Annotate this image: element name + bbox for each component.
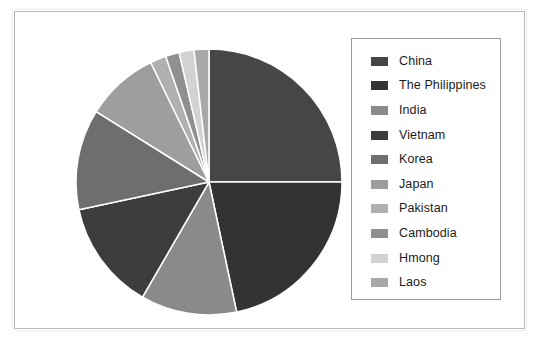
pie-chart — [61, 34, 357, 330]
legend-label: Vietnam — [399, 129, 445, 142]
pie-slice-china[interactable] — [209, 49, 342, 182]
figure-frame: ChinaThe PhilippinesIndiaVietnamKoreaJap… — [14, 11, 525, 329]
pie-chart-svg — [61, 34, 357, 330]
legend-label: China — [399, 55, 432, 68]
legend-swatch-icon — [371, 57, 388, 66]
legend-swatch-icon — [371, 106, 388, 115]
legend-label: Laos — [399, 276, 427, 289]
legend-item-vietnam[interactable]: Vietnam — [352, 123, 500, 148]
legend-item-hmong[interactable]: Hmong — [352, 246, 500, 271]
legend-item-japan[interactable]: Japan — [352, 172, 500, 197]
legend-swatch-icon — [371, 204, 388, 213]
legend-item-the-philippines[interactable]: The Philippines — [352, 74, 500, 99]
legend-swatch-icon — [371, 254, 388, 263]
legend-label: Korea — [399, 153, 433, 166]
legend-item-pakistan[interactable]: Pakistan — [352, 197, 500, 222]
legend-label: Japan — [399, 178, 434, 191]
pie-slice-group — [76, 49, 342, 315]
legend-label: Cambodia — [399, 227, 457, 240]
legend-item-cambodia[interactable]: Cambodia — [352, 221, 500, 246]
legend-swatch-icon — [371, 229, 388, 238]
legend-item-laos[interactable]: Laos — [352, 270, 500, 295]
legend-swatch-icon — [371, 131, 388, 140]
legend-label: Pakistan — [399, 202, 448, 215]
chart-legend: ChinaThe PhilippinesIndiaVietnamKoreaJap… — [351, 38, 501, 300]
legend-swatch-icon — [371, 278, 388, 287]
legend-swatch-icon — [371, 180, 388, 189]
legend-item-india[interactable]: India — [352, 98, 500, 123]
legend-swatch-icon — [371, 155, 388, 164]
figure-page: ChinaThe PhilippinesIndiaVietnamKoreaJap… — [0, 0, 539, 340]
legend-label: Hmong — [399, 252, 440, 265]
legend-item-china[interactable]: China — [352, 49, 500, 74]
legend-label: India — [399, 104, 427, 117]
legend-swatch-icon — [371, 81, 388, 90]
legend-label: The Philippines — [399, 79, 486, 92]
legend-item-korea[interactable]: Korea — [352, 147, 500, 172]
